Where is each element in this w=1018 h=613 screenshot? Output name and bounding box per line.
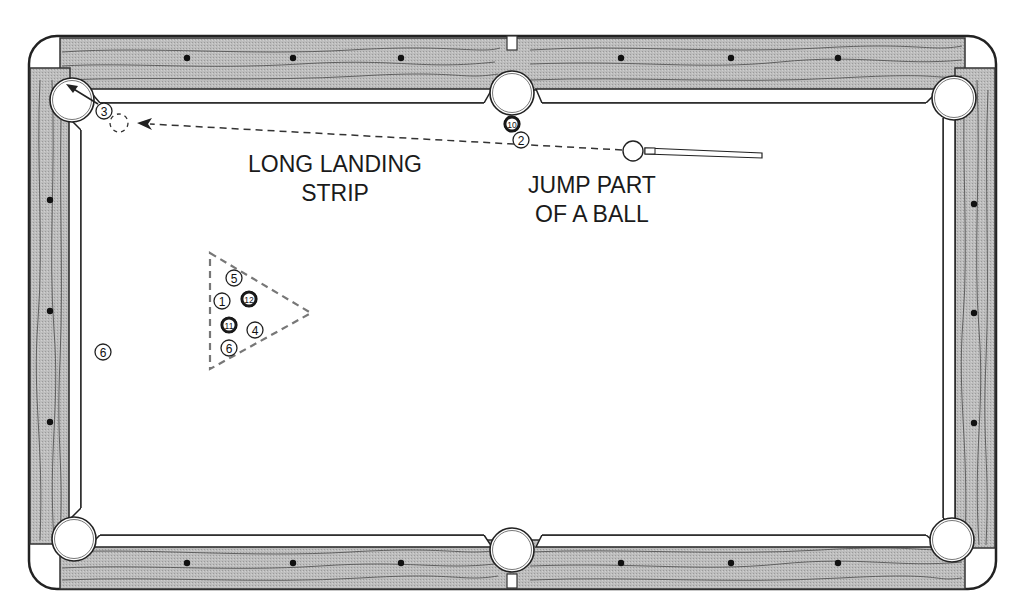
annotation-jump: JUMP PARTOF A BALL xyxy=(482,171,702,229)
top-side-pocket-marker xyxy=(507,36,517,50)
ball-number: 11 xyxy=(225,321,234,331)
ball-1: 1 xyxy=(214,293,230,309)
diamond-icon xyxy=(618,55,624,61)
ball-6: 6 xyxy=(95,344,111,360)
annotation-landing: LONG LANDINGSTRIP xyxy=(225,150,445,208)
ball-number: 4 xyxy=(252,324,259,338)
ball-number: 6 xyxy=(100,346,107,360)
pocket-bottom-left xyxy=(52,517,96,561)
diamond-icon xyxy=(971,310,977,316)
annotation-line: LONG LANDING xyxy=(225,150,445,179)
diamond-icon xyxy=(618,560,624,566)
ball-number: 10 xyxy=(507,120,517,130)
pool-table-diagram: 3102511211466 LONG LANDINGSTRIPJUMP PART… xyxy=(0,0,1018,613)
ball-6: 6 xyxy=(221,340,237,356)
diamond-icon xyxy=(835,55,841,61)
pocket-bottom-right xyxy=(930,518,974,562)
ball-number: 1 xyxy=(219,295,226,309)
pocket-top-side xyxy=(490,71,534,115)
diamond-icon xyxy=(184,55,190,61)
annotation-line: JUMP PART xyxy=(482,171,702,200)
ball-number: 3 xyxy=(101,105,108,119)
left-rail xyxy=(30,68,70,544)
diamond-icon xyxy=(290,560,296,566)
diamond-icon xyxy=(47,419,53,425)
pool-table: 3102511211466 xyxy=(0,0,1018,613)
diamond-icon xyxy=(290,55,296,61)
diamond-icon xyxy=(47,308,53,314)
pocket-top-left xyxy=(50,78,94,122)
ball-5: 5 xyxy=(226,270,242,286)
ball-10: 10 xyxy=(504,116,520,132)
right-rail xyxy=(955,68,995,548)
diamond-icon xyxy=(398,560,404,566)
ball-number: 5 xyxy=(231,272,238,286)
ball-number: 12 xyxy=(244,295,254,305)
pocket-top-right xyxy=(932,76,976,120)
diamond-icon xyxy=(971,420,977,426)
diamond-icon xyxy=(398,55,404,61)
diamond-icon xyxy=(971,201,977,207)
diamond-icon xyxy=(728,560,734,566)
ball-4: 4 xyxy=(247,322,263,338)
diamond-icon xyxy=(728,55,734,61)
ball-3: 3 xyxy=(96,103,112,119)
ball-12: 12 xyxy=(241,291,257,307)
diamond-icon xyxy=(835,560,841,566)
diamond-icon xyxy=(184,560,190,566)
pocket-bottom-side xyxy=(490,528,534,572)
diamond-icon xyxy=(47,197,53,203)
ball-number: 2 xyxy=(518,134,525,148)
cue-ball xyxy=(623,141,643,161)
annotation-line: STRIP xyxy=(225,179,445,208)
bottom-side-pocket-marker xyxy=(507,574,517,588)
ball-11: 11 xyxy=(221,317,237,333)
annotation-line: OF A BALL xyxy=(482,200,702,229)
ball-number: 6 xyxy=(226,342,233,356)
ball-2: 2 xyxy=(513,132,529,148)
